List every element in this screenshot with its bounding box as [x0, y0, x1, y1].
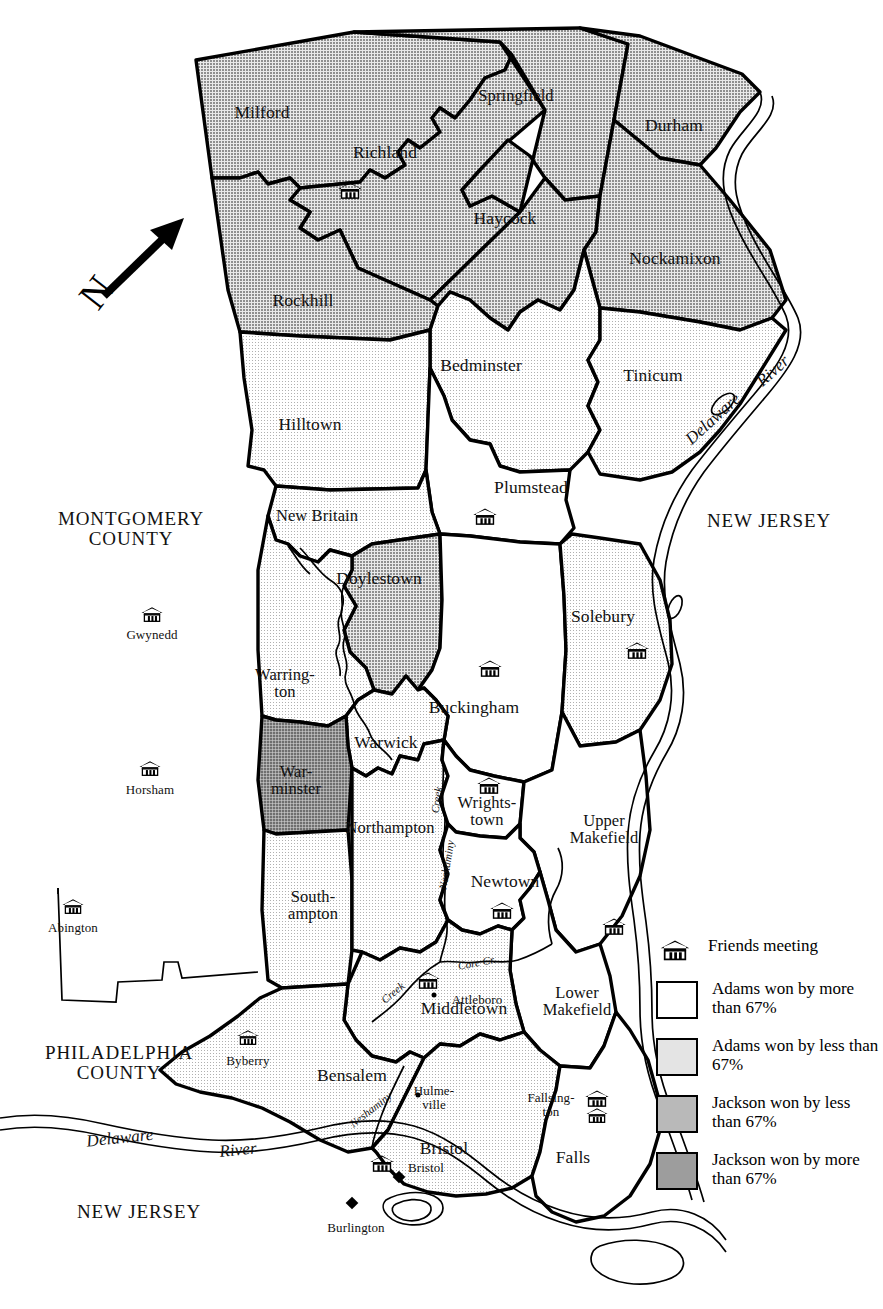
friends-meeting-icon — [585, 1107, 609, 1128]
legend-swatch-jackson-more — [656, 1152, 698, 1190]
friends-meeting-icon — [472, 507, 498, 530]
friends-meeting-icon — [601, 917, 627, 940]
friends-meeting-icon — [369, 1154, 395, 1177]
meeting-house-icon — [369, 1154, 395, 1173]
map-legend: Friends meetingAdams won by more than 67… — [656, 936, 882, 1207]
meeting-house-icon — [476, 776, 502, 795]
meeting-house-icon — [61, 898, 85, 915]
friends-meeting-icon — [476, 776, 502, 799]
meeting-house-icon — [337, 181, 363, 200]
legend-row: Jackson won by less than 67% — [656, 1093, 882, 1133]
place-marker-dot — [432, 993, 437, 998]
friends-meeting-icon — [624, 641, 650, 664]
meeting-house-icon — [601, 917, 627, 936]
place-marker-dot — [416, 1093, 421, 1098]
legend-row: Jackson won by more than 67% — [656, 1150, 882, 1190]
meeting-house-icon — [624, 641, 650, 660]
meeting-house-icon — [140, 606, 164, 623]
friends-meeting-icon — [236, 1029, 260, 1050]
meeting-house-icon — [477, 659, 503, 678]
meeting-house-icon — [472, 507, 498, 526]
friends-meeting-icon — [489, 901, 515, 924]
meeting-house-icon — [489, 901, 515, 920]
legend-row: Friends meeting — [656, 936, 882, 962]
legend-label: Jackson won by more than 67% — [712, 1150, 882, 1188]
north-arrow: N — [72, 208, 202, 328]
meeting-house-icon — [138, 760, 162, 777]
legend-row: Adams won by less than 67% — [656, 1036, 882, 1076]
friends-meeting-icon — [61, 898, 85, 919]
meeting-house-icon — [585, 1107, 609, 1124]
friends-meeting-icon — [415, 971, 441, 994]
north-arrow-letter: N — [72, 267, 123, 317]
legend-label: Jackson won by less than 67% — [712, 1093, 882, 1131]
legend-swatch-jackson-less — [656, 1095, 698, 1133]
legend-label: Adams won by less than 67% — [712, 1036, 882, 1074]
map-figure: .tw{stroke:#000;stroke-width:3.4;stroke-… — [0, 0, 883, 1309]
friends-meeting-icon — [337, 181, 363, 204]
legend-label: Adams won by more than 67% — [712, 979, 882, 1017]
friends-meeting-icon — [138, 760, 162, 781]
meeting-house-icon — [584, 1089, 610, 1108]
legend-swatch-adams-more — [656, 981, 698, 1019]
figure-caption — [0, 1294, 883, 1309]
legend-label: Friends meeting — [708, 936, 818, 955]
friends-meeting-icon — [477, 659, 503, 682]
meeting-house-icon — [659, 938, 691, 961]
legend-swatch-adams-less — [656, 1038, 698, 1076]
legend-meeting-house-icon — [656, 936, 694, 962]
friends-meeting-icon — [140, 606, 164, 627]
legend-row: Adams won by more than 67% — [656, 979, 882, 1019]
meeting-house-icon — [415, 971, 441, 990]
meeting-house-icon — [236, 1029, 260, 1046]
